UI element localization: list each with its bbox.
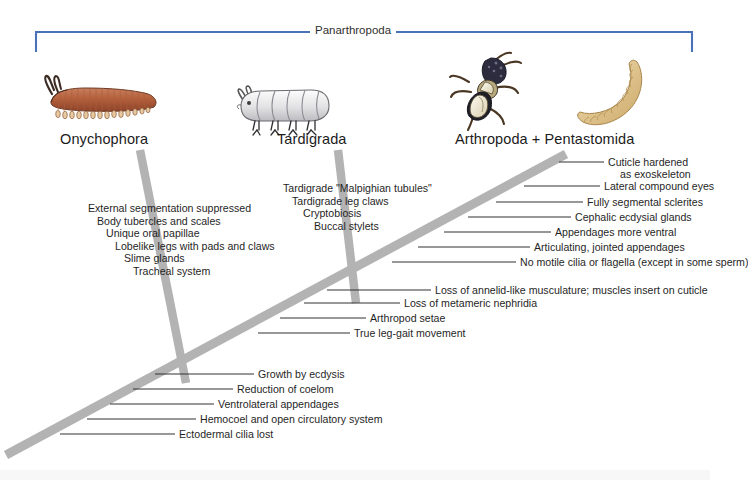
- trait-item: Ventrolateral appendages: [218, 398, 339, 411]
- trait-line: as exoskeleton: [608, 168, 691, 180]
- trait-item: Lobelike legs with pads and claws: [88, 240, 275, 253]
- trait-item: No motile cilia or flagella (except in s…: [520, 256, 748, 269]
- trait-item: Tardigrade leg claws: [283, 195, 432, 208]
- trait-item: Loss of metameric nephridia: [404, 297, 537, 310]
- trait-item: Cryptobiosis: [283, 207, 432, 220]
- trait-item: Reduction of coelom: [237, 383, 334, 396]
- taxon-label-tardigrada[interactable]: Tardigrada: [277, 131, 347, 147]
- bracket-title: Panarthropoda: [310, 24, 396, 36]
- synapomorphy-group-tardigrada: Tardigrade "Malpighian tubules" Tardigra…: [283, 182, 432, 232]
- trait-item: Ectodermal cilia lost: [179, 428, 273, 441]
- taxon-label-arthropoda-pentastomida[interactable]: Arthropoda + Pentastomida: [455, 131, 634, 147]
- trait-item: Appendages more ventral: [555, 226, 676, 239]
- trait-item: Articulating, jointed appendages: [534, 241, 685, 254]
- trait-item: Lateral compound eyes: [604, 180, 714, 193]
- trait-item: True leg-gait movement: [354, 327, 465, 340]
- trait-cuticle-hardened: Cuticle hardened as exoskeleton: [608, 156, 703, 180]
- trait-item: Loss of annelid-like musculature; muscle…: [435, 284, 708, 297]
- trait-item: Tardigrade "Malpighian tubules": [283, 182, 432, 195]
- trait-line: Cuticle hardened: [608, 156, 688, 168]
- trait-item: Buccal stylets: [283, 220, 432, 233]
- trait-item: Fully segmental sclerites: [587, 196, 703, 209]
- trait-item: Cephalic ecdysial glands: [575, 211, 692, 224]
- trait-item: Growth by ecdysis: [258, 368, 345, 381]
- trait-item: Arthropod setae: [370, 312, 445, 325]
- trait-item: Unique oral papillae: [88, 227, 275, 240]
- trait-item: Slime glands: [88, 252, 275, 265]
- trait-item: External segmentation suppressed: [88, 202, 275, 215]
- taxon-label-onychophora[interactable]: Onychophora: [60, 131, 148, 147]
- trait-item: Tracheal system: [88, 265, 275, 278]
- synapomorphy-group-onychophora: External segmentation suppressed Body tu…: [88, 202, 275, 278]
- trait-item: Body tubercles and scales: [88, 215, 275, 228]
- trait-item: Hemocoel and open circulatory system: [200, 413, 383, 426]
